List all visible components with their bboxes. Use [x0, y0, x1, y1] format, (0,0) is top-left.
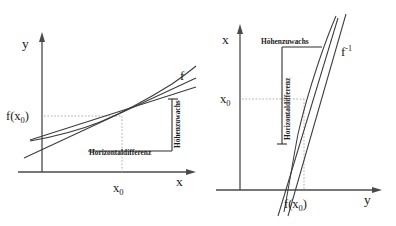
left-y-axis-arrow-icon: [39, 32, 45, 42]
left-curve-label-f: f: [180, 68, 185, 83]
left-x0-sub: 0: [119, 187, 123, 197]
right-panel-inverse-function: x y x0 f(x0) f-1 Höhenzuwachs Horizontal…: [198, 0, 396, 226]
right-hoehenzuwachs-label: Höhenzuwachs: [261, 37, 309, 46]
right-guide-lines: [242, 99, 304, 190]
left-guide-lines: [44, 116, 122, 172]
left-x-axis: [18, 169, 196, 175]
right-horizontaldifferenz-label: Horizontaldifferenz: [283, 77, 292, 140]
right-vertical-axis-arrow-icon: [237, 24, 243, 34]
right-vertical-axis-label: x: [222, 32, 229, 47]
left-curve-f: [30, 66, 196, 141]
right-curve-label-f-inverse: f-1: [341, 44, 352, 59]
left-x-axis-label: x: [176, 174, 183, 189]
right-horizontal-axis-label: y: [364, 192, 371, 207]
right-x0-label: x0: [220, 92, 231, 108]
right-fx0-label: f(x0): [284, 197, 307, 213]
left-hoehenzuwachs-label: Höhenzuwachs: [173, 100, 182, 148]
svg-text:f(x0): f(x0): [284, 197, 307, 213]
left-x-axis-arrow-icon: [186, 169, 196, 175]
left-x0-label: x0: [113, 181, 124, 197]
left-horizontaldifferenz-label: Horizontaldifferenz: [89, 148, 152, 157]
right-curve-label-sup: -1: [345, 44, 352, 53]
left-fx0-label: f(x0): [6, 109, 29, 125]
left-fx0-base: f(x: [6, 109, 21, 123]
left-y-axis-label: y: [22, 36, 29, 51]
right-fx0-base: f(x: [284, 197, 299, 211]
left-fx0-close: ): [25, 109, 29, 123]
right-horizontal-axis: [216, 187, 382, 193]
right-fx0-close: ): [303, 197, 307, 211]
svg-text:x0: x0: [220, 92, 231, 108]
derivative-of-inverse-function-figure: y x f(x0) x0 f Horizontaldifferenz Höhen…: [0, 0, 396, 226]
left-tangent-line: [24, 78, 196, 158]
right-vertical-axis: [237, 24, 243, 190]
svg-text:f-1: f-1: [341, 44, 352, 59]
left-panel-function-f: y x f(x0) x0 f Horizontaldifferenz Höhen…: [0, 0, 198, 226]
left-secant-line: [30, 87, 196, 140]
right-x0-sub: 0: [226, 98, 230, 108]
svg-text:x0: x0: [113, 181, 124, 197]
svg-text:f(x0): f(x0): [6, 109, 29, 125]
right-horizontal-axis-arrow-icon: [372, 187, 382, 193]
